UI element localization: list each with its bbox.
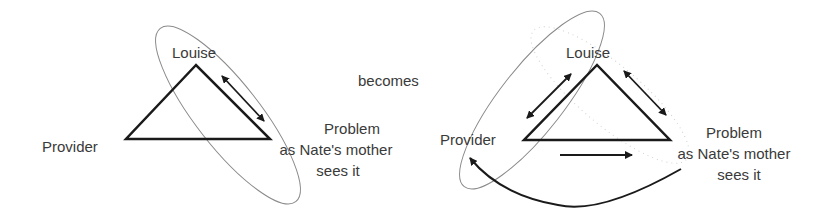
left-triangle-group — [126, 9, 321, 217]
right-triangle — [524, 65, 670, 140]
becomes-label: becomes — [358, 72, 419, 90]
left-problem-line2: as Nate's mother — [256, 141, 416, 159]
left-grouping-ellipse — [135, 9, 321, 217]
right-curved-arrow-problem-provider — [470, 158, 681, 207]
right-problem-line2: as Nate's mother — [654, 145, 814, 163]
right-problem-line3: sees it — [654, 166, 814, 184]
diagram-graphics — [0, 0, 840, 217]
right-node-provider: Provider — [440, 131, 496, 149]
right-node-problem: Problem as Nate's mother sees it — [654, 124, 814, 184]
triangle-diagram: Louise Provider Problem as Nate's mother… — [0, 0, 840, 217]
left-problem-line1: Problem — [256, 120, 416, 138]
right-double-arrow-louise-provider — [527, 74, 571, 118]
left-node-problem: Problem as Nate's mother sees it — [256, 120, 416, 180]
left-node-provider: Provider — [42, 138, 98, 156]
left-node-louise: Louise — [172, 44, 216, 62]
right-grouping-ellipse — [439, 0, 625, 206]
left-problem-line3: sees it — [256, 162, 416, 180]
right-problem-line1: Problem — [654, 124, 814, 142]
right-node-louise: Louise — [566, 44, 610, 62]
right-double-arrow-louise-problem — [624, 71, 666, 115]
